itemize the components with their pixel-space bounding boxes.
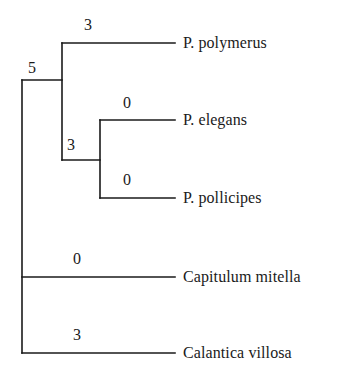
taxon-label-capitulum-mitella: Capitulum mitella [183, 269, 301, 285]
branch-length-label-elegans: 0 [123, 95, 131, 111]
phylogenetic-tree-figure: P. polymerusP. elegansP. pollicipesCapit… [0, 0, 360, 369]
taxon-label-calantica-villosa: Calantica villosa [183, 345, 292, 361]
tree-branch-lines [0, 0, 360, 369]
branch-length-label-calantica: 3 [73, 327, 81, 343]
branch-length-label-capitulum: 0 [73, 251, 81, 267]
branch-length-label-node-b: 3 [67, 137, 75, 153]
taxon-label-p-polymerus: P. polymerus [183, 35, 267, 51]
taxon-label-p-elegans: P. elegans [183, 112, 247, 128]
branch-length-label-node-a: 5 [28, 60, 36, 76]
branch-length-label-pollicipes: 0 [123, 172, 131, 188]
branch-length-label-polymerus: 3 [84, 17, 92, 33]
taxon-label-p-pollicipes: P. pollicipes [183, 190, 262, 206]
